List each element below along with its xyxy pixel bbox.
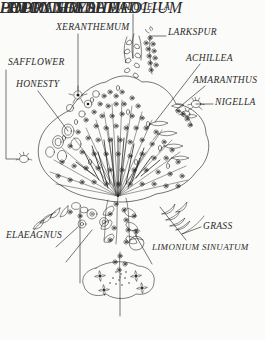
safflower-bloom: [16, 152, 32, 162]
seed-buds: [62, 85, 169, 168]
achillea-umbels: [146, 121, 189, 163]
label-amaranthus: AMARANTHUS: [193, 76, 257, 86]
leader-poppy-seedhead: [136, 236, 152, 264]
nigella-pods: [179, 97, 204, 117]
label-nigella: NIGELLA: [215, 98, 256, 108]
upper-spires: [124, 34, 141, 78]
label-elaeagnus: ELAEAGNUS: [6, 231, 62, 241]
leader-honesty: [38, 91, 68, 131]
leader-amaranthus: [176, 86, 205, 110]
botanical-diagram-figure: MOLUCELLA XERANTHEMUM LARKSPUR SAFFLOWER…: [0, 0, 265, 340]
leader-grass: [182, 227, 201, 234]
hydrangea-mass: [83, 262, 155, 299]
leader-helichrysum: [66, 230, 92, 262]
bouquet-illustration: [0, 0, 265, 340]
elaeagnus-sprays: [33, 203, 88, 230]
grass-fronds: [162, 202, 204, 234]
limonium-sinuatum-cluster: [101, 196, 138, 244]
interior-hatching: [76, 136, 160, 188]
label-xeranthemum: XERANTHEMUM: [56, 23, 129, 33]
centre-bead-clusters: [56, 90, 184, 188]
label-honesty: HONESTY: [16, 80, 59, 90]
limonium-latifolium-spray: [113, 252, 127, 278]
honesty-discs: [46, 124, 81, 162]
poppy-seedhead: [129, 229, 144, 250]
hydrangea-florets: [95, 271, 148, 296]
label-grass: GRASS: [203, 222, 232, 232]
label-limonium-latifolium: LIMONIUM LATIFOLIUM: [0, 0, 182, 16]
label-achillea: ACHILLEA: [186, 54, 233, 64]
label-safflower: SAFFLOWER: [8, 58, 65, 68]
internal-stems: [50, 100, 188, 196]
leader-limonium-sinuatum: [160, 207, 186, 240]
larkspur-spike: [144, 27, 158, 74]
bouquet-silhouette: [38, 76, 209, 202]
label-limonium-sinuatum: LIMONIUM SINUATUM: [152, 243, 249, 252]
helichrysum-heads: [78, 209, 108, 228]
xeranthemum-heads: [66, 86, 99, 117]
leader-achillea: [155, 64, 200, 122]
flower-heads: [46, 85, 185, 188]
amaranthus-tassel: [172, 104, 197, 127]
label-larkspur: LARKSPUR: [168, 28, 217, 38]
